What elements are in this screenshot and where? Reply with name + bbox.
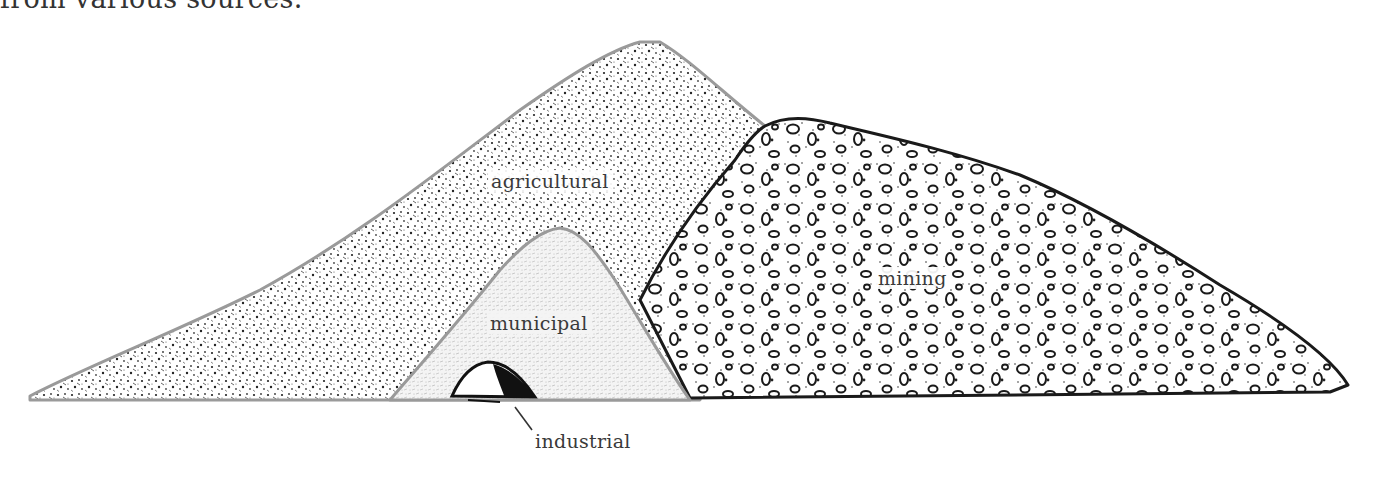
- label-mining: mining: [875, 267, 950, 289]
- label-agricultural: agricultural: [488, 170, 612, 192]
- label-industrial: industrial: [532, 430, 634, 452]
- waste-piles-illustration: [0, 0, 1375, 485]
- industrial-leader-line: [515, 407, 532, 430]
- label-municipal: municipal: [487, 312, 591, 334]
- mining-pile: [640, 118, 1348, 398]
